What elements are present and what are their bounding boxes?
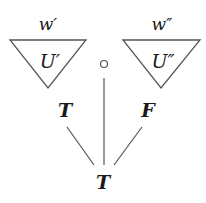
child-label-f: F bbox=[140, 99, 156, 121]
middle-node-circle bbox=[101, 61, 108, 68]
left-subtree: w′ U′ bbox=[10, 14, 86, 88]
edge-right bbox=[114, 127, 142, 165]
right-world-label: w″ bbox=[152, 14, 174, 34]
left-tree-label: U′ bbox=[40, 50, 61, 72]
tree-diagram: w′ U′ w″ U″ T F T bbox=[0, 0, 206, 203]
edge-left bbox=[67, 127, 94, 165]
right-subtree: w″ U″ bbox=[123, 14, 200, 88]
left-world-label: w′ bbox=[39, 14, 58, 34]
right-tree-label: U″ bbox=[151, 50, 174, 72]
root-label: T bbox=[96, 171, 112, 193]
child-label-t: T bbox=[58, 99, 74, 121]
